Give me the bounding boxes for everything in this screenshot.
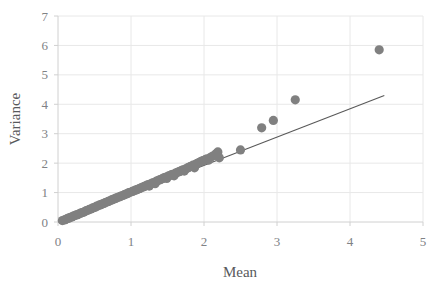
data-point-outlier: [269, 116, 278, 125]
x-tick-label: 1: [128, 234, 135, 249]
y-tick-label: 2: [42, 156, 49, 171]
y-tick-label: 3: [42, 126, 49, 141]
data-point-outlier: [291, 95, 300, 104]
x-tick-label: 2: [201, 234, 208, 249]
y-tick-label: 7: [42, 9, 49, 24]
scatter-chart: 01234567 012345 Mean Variance: [0, 0, 444, 287]
x-axis-title: Mean: [223, 264, 258, 280]
data-point-outlier: [375, 45, 384, 54]
data-point-outlier: [257, 123, 266, 132]
x-tick-label: 4: [347, 234, 354, 249]
y-tick-label: 5: [42, 67, 49, 82]
y-axis-title: Variance: [7, 92, 23, 145]
y-tick-label: 4: [42, 97, 49, 112]
data-point-outlier: [236, 145, 245, 154]
y-tick-label: 1: [42, 185, 49, 200]
y-tick-label: 0: [42, 215, 49, 230]
data-point: [215, 153, 224, 162]
x-tick-label: 3: [274, 234, 281, 249]
y-tick-label: 6: [42, 38, 49, 53]
x-tick-label: 5: [420, 234, 427, 249]
x-tick-label: 0: [55, 234, 62, 249]
chart-background: [0, 0, 444, 287]
